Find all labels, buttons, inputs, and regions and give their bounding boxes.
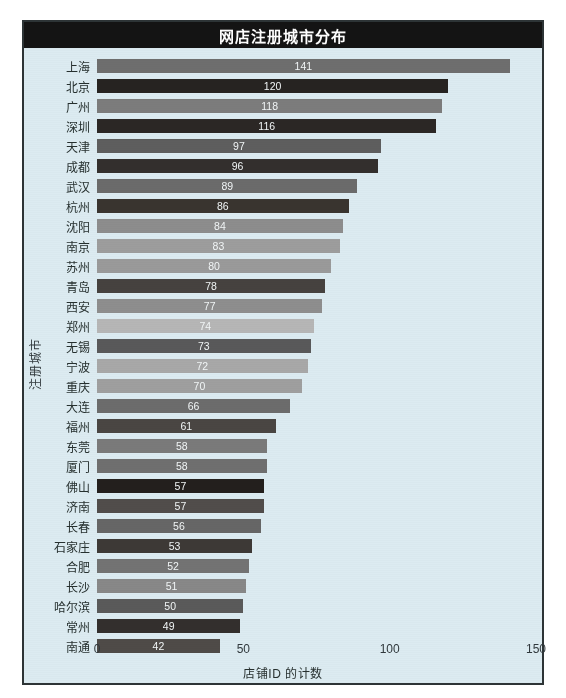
category-label: 无锡 [46, 338, 97, 355]
bar-value-label: 77 [204, 301, 216, 312]
bar: 96 [97, 159, 378, 173]
bar: 58 [97, 439, 267, 453]
bar-track: 61 [97, 416, 536, 436]
category-label: 南京 [46, 238, 97, 255]
category-label: 成都 [46, 158, 97, 175]
category-label: 广州 [46, 98, 97, 115]
bar-row: 厦门58 [46, 456, 536, 476]
bar-track: 58 [97, 436, 536, 456]
bar: 89 [97, 179, 357, 193]
bar: 57 [97, 499, 264, 513]
bar-rows: 上海141北京120广州118深圳116天津97成都96武汉89杭州86沈阳84… [46, 56, 536, 636]
bar-track: 74 [97, 316, 536, 336]
bar: 74 [97, 319, 314, 333]
bar-track: 89 [97, 176, 536, 196]
bar-row: 佛山57 [46, 476, 536, 496]
x-axis-title: 店铺ID 的计数 [24, 664, 542, 681]
bar-row: 长春56 [46, 516, 536, 536]
bar: 53 [97, 539, 252, 553]
bar: 141 [97, 59, 510, 73]
bar: 77 [97, 299, 322, 313]
bar-value-label: 72 [197, 361, 209, 372]
bar-row: 天津97 [46, 136, 536, 156]
bar-row: 济南57 [46, 496, 536, 516]
bar-row: 成都96 [46, 156, 536, 176]
bar: 116 [97, 119, 436, 133]
bar-row: 西安77 [46, 296, 536, 316]
category-label: 西安 [46, 298, 97, 315]
bar-value-label: 78 [205, 281, 217, 292]
bar-track: 80 [97, 256, 536, 276]
category-label: 哈尔滨 [46, 598, 97, 615]
category-label: 苏州 [46, 258, 97, 275]
bar-row: 沈阳84 [46, 216, 536, 236]
bar-track: 51 [97, 576, 536, 596]
category-label: 常州 [46, 618, 97, 635]
bar-value-label: 49 [163, 621, 175, 632]
category-label: 重庆 [46, 378, 97, 395]
bar-row: 合肥52 [46, 556, 536, 576]
category-label: 沈阳 [46, 218, 97, 235]
bar-value-label: 70 [194, 381, 206, 392]
bar-row: 杭州86 [46, 196, 536, 216]
bar-track: 86 [97, 196, 536, 216]
category-label: 深圳 [46, 118, 97, 135]
y-axis-title-text: 注册城市 [26, 337, 43, 389]
bar: 70 [97, 379, 302, 393]
category-label: 宁波 [46, 358, 97, 375]
category-label: 北京 [46, 78, 97, 95]
bar-track: 58 [97, 456, 536, 476]
category-label: 佛山 [46, 478, 97, 495]
bar: 72 [97, 359, 308, 373]
bar-track: 97 [97, 136, 536, 156]
category-label: 杭州 [46, 198, 97, 215]
bar-value-label: 50 [164, 601, 176, 612]
bar-value-label: 58 [176, 441, 188, 452]
bar-track: 116 [97, 116, 536, 136]
bar-track: 118 [97, 96, 536, 116]
category-label: 合肥 [46, 558, 97, 575]
category-label: 厦门 [46, 458, 97, 475]
x-axis-ticks: 050100150 [97, 642, 536, 662]
bar: 80 [97, 259, 331, 273]
bar-track: 56 [97, 516, 536, 536]
bar-row: 长沙51 [46, 576, 536, 596]
y-axis-title: 注册城市 [24, 318, 44, 408]
bar-row: 重庆70 [46, 376, 536, 396]
bar: 61 [97, 419, 276, 433]
chart-figure: 网店注册城市分布 注册城市 上海141北京120广州118深圳116天津97成都… [22, 20, 544, 685]
category-label: 郑州 [46, 318, 97, 335]
category-label: 福州 [46, 418, 97, 435]
category-label: 东莞 [46, 438, 97, 455]
bar: 57 [97, 479, 264, 493]
bar-value-label: 66 [188, 401, 200, 412]
category-label: 长春 [46, 518, 97, 535]
bar-track: 72 [97, 356, 536, 376]
bar-row: 北京120 [46, 76, 536, 96]
bar-track: 66 [97, 396, 536, 416]
bar-value-label: 141 [295, 61, 313, 72]
category-label: 南通 [46, 638, 97, 655]
bar-row: 石家庄53 [46, 536, 536, 556]
bar: 73 [97, 339, 311, 353]
bar-value-label: 61 [180, 421, 192, 432]
bar-value-label: 53 [169, 541, 181, 552]
bar-track: 57 [97, 476, 536, 496]
bar-row: 宁波72 [46, 356, 536, 376]
bar-value-label: 73 [198, 341, 210, 352]
bar: 51 [97, 579, 246, 593]
plot-area: 注册城市 上海141北京120广州118深圳116天津97成都96武汉89杭州8… [24, 48, 542, 687]
x-tick-label: 50 [237, 642, 250, 656]
bar: 118 [97, 99, 442, 113]
bar-row: 武汉89 [46, 176, 536, 196]
bar-value-label: 51 [166, 581, 178, 592]
bar-row: 苏州80 [46, 256, 536, 276]
bar-value-label: 118 [261, 101, 278, 112]
chart-title-bar: 网店注册城市分布 [24, 22, 542, 48]
bar: 84 [97, 219, 343, 233]
bar-row: 南京83 [46, 236, 536, 256]
bar-value-label: 57 [175, 501, 187, 512]
category-label: 青岛 [46, 278, 97, 295]
category-label: 上海 [46, 58, 97, 75]
bar-row: 大连66 [46, 396, 536, 416]
